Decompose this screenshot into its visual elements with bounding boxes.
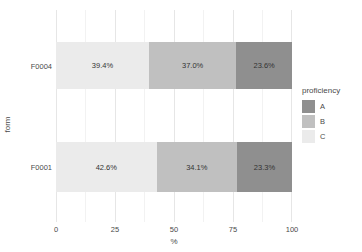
bar-segment-f0004-a[interactable]: 23.6% (236, 42, 292, 89)
x-axis-title: % (56, 237, 292, 246)
bar-segment-f0001-b[interactable]: 34.1% (157, 142, 237, 192)
plot-panel: 39.4% 37.0% 23.6% 42.6% 34.1% 23.3% (56, 10, 292, 222)
x-tick-label-100: 100 (280, 225, 304, 234)
bar-label-f0001-b: 34.1% (186, 163, 207, 172)
stacked-bar-chart: form F0004 F0001 39.4% 37.0% 23.6% (0, 0, 362, 252)
bar-segment-f0001-a[interactable]: 23.3% (237, 142, 292, 192)
bar-segment-f0004-c[interactable]: 39.4% (56, 42, 149, 89)
bar-label-f0001-c: 42.6% (96, 163, 117, 172)
bar-segment-f0004-b[interactable]: 37.0% (149, 42, 236, 89)
legend-label-b: B (320, 117, 325, 126)
bar-label-f0004-a: 23.6% (253, 61, 274, 70)
legend-item-a[interactable]: A (302, 99, 362, 113)
x-tick-label-50: 50 (162, 225, 186, 234)
y-tick-label-f0001: F0001 (14, 163, 52, 172)
y-axis-title: form (0, 94, 14, 154)
bar-label-f0004-c: 39.4% (92, 61, 113, 70)
bar-label-f0004-b: 37.0% (182, 61, 203, 70)
x-tick-label-0: 0 (44, 225, 68, 234)
y-tick-label-f0004: F0004 (14, 62, 52, 71)
legend-item-c[interactable]: C (302, 129, 362, 143)
bar-segment-f0001-c[interactable]: 42.6% (56, 142, 157, 192)
y-axis-title-text: form (3, 116, 12, 132)
legend-swatch-b (302, 115, 315, 128)
bar-row-f0004: 39.4% 37.0% 23.6% (56, 42, 292, 89)
legend-item-b[interactable]: B (302, 114, 362, 128)
legend-swatch-a (302, 100, 315, 113)
x-tick-label-25: 25 (103, 225, 127, 234)
legend: proficiency A B C (302, 86, 362, 144)
legend-swatch-c (302, 130, 315, 143)
x-tick-label-75: 75 (221, 225, 245, 234)
legend-label-c: C (320, 132, 325, 141)
bar-label-f0001-a: 23.3% (254, 163, 275, 172)
bar-row-f0001: 42.6% 34.1% 23.3% (56, 142, 292, 192)
legend-label-a: A (320, 102, 325, 111)
legend-title: proficiency (302, 86, 362, 95)
